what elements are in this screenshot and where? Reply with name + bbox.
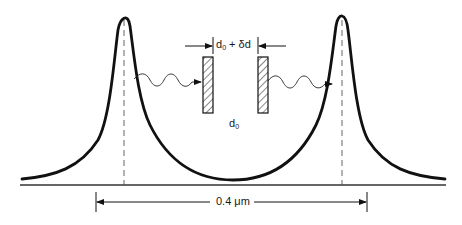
peak-spacing-text: 0.4 μm	[216, 195, 250, 207]
peak-spacing-label: 0.4 μm	[214, 195, 252, 207]
outgoing-wave	[268, 76, 332, 88]
diagram-canvas	[0, 0, 462, 225]
left-mirror	[203, 57, 213, 113]
right-mirror	[258, 57, 268, 113]
incoming-wave	[134, 74, 201, 86]
center-label-subscript: 0	[235, 123, 239, 130]
gap-label-suffix: + δd	[226, 38, 251, 50]
gap-label-top: d0 + δd	[216, 38, 251, 51]
gap-label-center: d0	[229, 117, 239, 130]
